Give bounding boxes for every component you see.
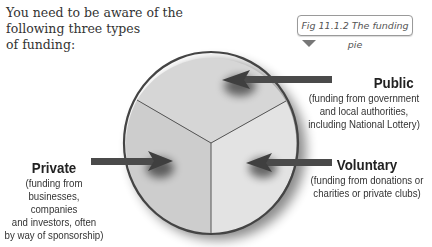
segment-title-voluntary: Voluntary bbox=[307, 157, 427, 174]
segment-title-private: Private bbox=[4, 160, 103, 177]
segment-desc-line: (funding from government bbox=[301, 92, 426, 105]
segment-desc-line: by way of sponsorship) bbox=[4, 229, 103, 242]
segment-label-public: Public (funding from government and loca… bbox=[296, 75, 432, 131]
segment-label-private: Private (funding from businesses, compan… bbox=[0, 160, 108, 242]
segment-desc-line: (funding from bbox=[4, 177, 103, 190]
segment-desc-line: and local authorities, bbox=[301, 105, 426, 118]
segment-desc-line: including National Lottery) bbox=[301, 118, 426, 131]
segment-desc-line: businesses, companies bbox=[4, 190, 103, 216]
segment-desc-line: (funding from donations or bbox=[307, 174, 427, 187]
segment-desc-line: and investors, often bbox=[4, 216, 103, 229]
segment-desc-line: charities or private clubs) bbox=[307, 187, 427, 200]
segment-title-public: Public bbox=[301, 75, 426, 92]
segment-label-voluntary: Voluntary (funding from donations or cha… bbox=[302, 157, 432, 200]
